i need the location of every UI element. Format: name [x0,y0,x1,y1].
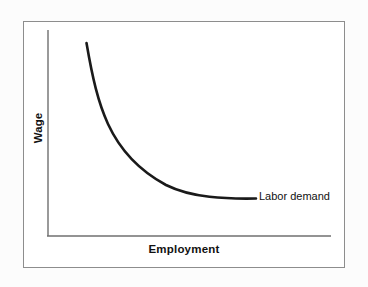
y-axis-label-container: Wage [20,103,56,153]
y-axis-label: Wage [32,113,44,143]
x-axis-label: Employment [0,243,368,255]
figure-canvas: Wage Employment Labor demand [0,0,368,287]
series-label-labor-demand: Labor demand [259,190,330,202]
labor-demand-curve [87,43,257,199]
